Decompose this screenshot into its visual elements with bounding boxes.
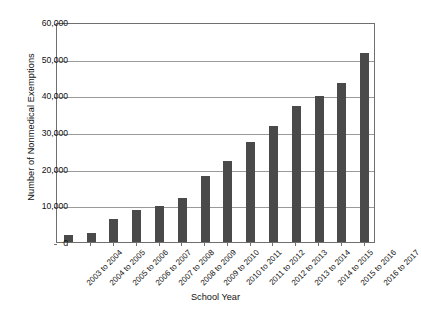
- bar: [246, 142, 255, 242]
- y-tick-label: 0: [20, 238, 68, 248]
- y-tick-label: 50,000: [20, 55, 68, 65]
- x-tick-mark: [295, 243, 296, 246]
- x-tick-mark: [67, 243, 68, 246]
- plot-area: [56, 23, 375, 243]
- bar: [201, 176, 210, 242]
- bar: [87, 233, 96, 242]
- bar: [132, 210, 141, 242]
- x-tick-mark: [318, 243, 319, 246]
- bar: [178, 198, 187, 242]
- bars-group: [57, 24, 374, 242]
- y-tick-label: 40,000: [20, 91, 68, 101]
- y-tick-label: 60,000: [20, 18, 68, 28]
- x-tick-mark: [364, 243, 365, 246]
- bar: [360, 53, 369, 242]
- bar: [315, 96, 324, 242]
- x-tick-mark: [113, 243, 114, 246]
- x-tick-mark: [250, 243, 251, 246]
- bar: [292, 106, 301, 242]
- bar: [269, 126, 278, 242]
- bar: [337, 83, 346, 242]
- y-tick-label: 10,000: [20, 201, 68, 211]
- x-tick-mark: [136, 243, 137, 246]
- bar: [223, 161, 232, 242]
- y-tick-label: 30,000: [20, 128, 68, 138]
- x-axis-title: School Year: [56, 292, 375, 302]
- y-tick-label: 20,000: [20, 165, 68, 175]
- bar: [155, 206, 164, 242]
- x-tick-mark: [90, 243, 91, 246]
- x-tick-mark: [159, 243, 160, 246]
- x-tick-mark: [204, 243, 205, 246]
- x-tick-mark: [181, 243, 182, 246]
- x-tick-mark: [341, 243, 342, 246]
- x-tick-mark: [272, 243, 273, 246]
- bar: [109, 219, 118, 242]
- x-tick-mark: [227, 243, 228, 246]
